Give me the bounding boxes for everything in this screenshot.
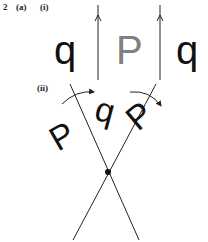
reflection-diagram: q P q P q P bbox=[0, 0, 208, 242]
letter-q-rotated-middle: q bbox=[91, 89, 119, 131]
letter-q-right: q bbox=[176, 28, 198, 72]
letter-p-rotated-right: P bbox=[118, 94, 160, 138]
mirror-line-1 bbox=[95, 5, 101, 80]
mirror-line-2 bbox=[157, 5, 163, 80]
intersection-point bbox=[105, 169, 111, 175]
letter-p-original: P bbox=[116, 28, 143, 72]
letter-q-left: q bbox=[54, 28, 76, 72]
letter-p-rotated-left: P bbox=[43, 114, 82, 158]
